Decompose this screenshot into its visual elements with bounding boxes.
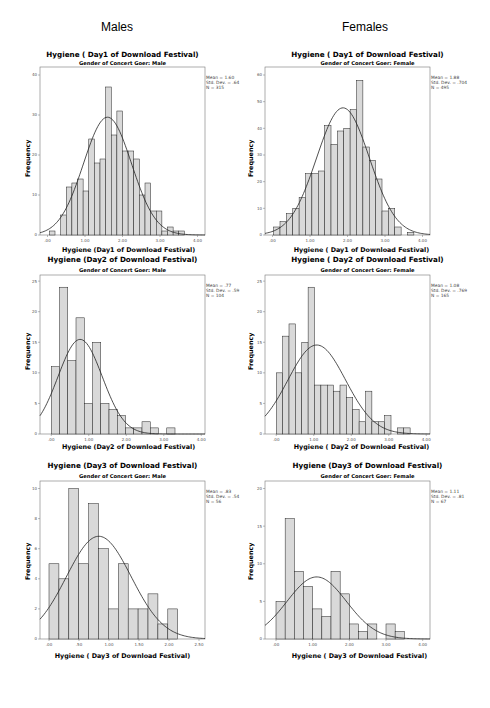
y-tick-label: 0 (259, 636, 262, 641)
y-axis-label: Frequency (247, 543, 255, 580)
x-tick-label: 1.00 (309, 437, 318, 442)
y-axis-label: Frequency (247, 140, 255, 177)
histogram-bar (294, 571, 303, 639)
y-tick-label: 25 (257, 279, 263, 284)
x-tick-label: 2.00 (122, 437, 131, 442)
histogram-bar (388, 208, 394, 235)
histogram-bar (78, 179, 84, 235)
y-tick-label: 5 (34, 401, 37, 406)
x-tick-label: 1.00 (308, 642, 317, 647)
y-tick-label: 20 (32, 152, 38, 157)
histogram-bar (69, 489, 79, 639)
histogram-bar (134, 159, 140, 235)
y-tick-label: 20 (257, 309, 263, 314)
histogram-bar (395, 227, 401, 235)
histogram-bar (334, 391, 340, 434)
histogram-bar (162, 231, 168, 235)
histogram-bar (359, 422, 365, 434)
histogram-bar (158, 624, 168, 639)
plot-area: 05101520.001.002.003.004.00 (245, 450, 490, 650)
histogram-bar (321, 385, 327, 434)
histogram-bar (89, 139, 95, 235)
histogram-bar (372, 422, 378, 434)
y-tick-label: 0 (34, 232, 37, 237)
y-tick-label: 15 (257, 340, 263, 345)
histogram-male-day1: Hygiene ( Day1 of Download Festival) Gen… (0, 40, 245, 240)
histogram-bar (148, 594, 158, 639)
plot-area: 010203040.001.002.003.004.00 (0, 40, 245, 240)
histogram-bar (408, 232, 414, 235)
x-tick-label: 2.00 (347, 437, 356, 442)
histogram-bar (101, 403, 109, 434)
y-tick-label: 10 (32, 370, 38, 375)
histogram-bar (331, 571, 340, 639)
stats-box: Mean = 1.60Std. Dev. = .64N = 315 (206, 75, 239, 90)
stats-box: Mean = 1.08Std. Dev. = .769N = 165 (431, 283, 467, 298)
x-tick-label: 1.50 (135, 642, 144, 647)
histogram-bar (306, 174, 312, 235)
column-title-males: Males (101, 20, 133, 34)
y-tick-label: 5 (259, 599, 262, 604)
x-tick-label: 2.50 (195, 642, 204, 647)
histogram-bar (340, 385, 346, 434)
x-tick-label: .00 (273, 437, 280, 442)
histogram-bar (128, 609, 138, 639)
histogram-bar (308, 287, 314, 434)
histogram-bar (117, 111, 123, 235)
y-tick-label: 2 (34, 606, 37, 611)
histogram-bar (369, 160, 375, 235)
histogram-bar (276, 601, 285, 639)
y-tick-label: 10 (32, 486, 38, 491)
y-axis-label: Frequency (247, 333, 255, 370)
histogram-female-day2: Hygiene ( Day2 of Download Festival) Gen… (245, 250, 490, 450)
x-tick-label: 1.00 (81, 238, 90, 243)
y-tick-label: 0 (259, 431, 262, 436)
y-tick-label: 40 (257, 126, 263, 131)
x-tick-label: 2.00 (343, 238, 352, 243)
plot-area: 0246810.00.501.001.502.002.50 (0, 450, 245, 650)
y-tick-label: 0 (34, 431, 37, 436)
y-tick-label: 0 (259, 232, 262, 237)
histogram-bar (108, 609, 118, 639)
histogram-bar (322, 616, 331, 639)
x-axis-label: Hygiene ( Day3 of Download Festival) (0, 652, 245, 660)
histogram-bar (79, 564, 89, 639)
x-tick-label: 2.00 (345, 642, 354, 647)
histogram-bar (49, 231, 55, 235)
y-tick-label: 15 (32, 340, 38, 345)
x-tick-label: 4.00 (193, 238, 202, 243)
histogram-bar (139, 195, 145, 235)
y-tick-label: 15 (257, 524, 263, 529)
x-tick-label: .50 (76, 642, 83, 647)
y-axis-label: Frequency (24, 333, 32, 370)
histogram-bar (151, 211, 157, 235)
histogram-male-day2: Hygiene (Day2 of Download Festival) Gend… (0, 250, 245, 450)
histogram-bar (304, 586, 313, 639)
histogram-bar (359, 631, 368, 639)
histogram-male-day3: Hygiene (Day3 of Download Festival) Gend… (0, 450, 245, 650)
histogram-bar (312, 174, 318, 235)
histogram-bar (385, 416, 391, 434)
histogram-bar (350, 110, 356, 235)
histogram-bar (346, 397, 352, 434)
y-tick-label: 10 (32, 192, 38, 197)
x-tick-label: 2.00 (165, 642, 174, 647)
y-tick-label: 20 (257, 486, 263, 491)
histogram-bar (315, 385, 321, 434)
x-tick-label: .00 (48, 437, 55, 442)
y-tick-label: 5 (259, 401, 262, 406)
histogram-bar (106, 87, 112, 235)
x-axis-label: Hygiene ( Day3 of Download Festival) (237, 652, 482, 660)
histogram-bar (61, 215, 67, 235)
histogram-bar (382, 211, 388, 235)
x-tick-label: 4.00 (418, 642, 427, 647)
histogram-bar (276, 373, 282, 434)
x-tick-label: .00 (269, 238, 276, 243)
histogram-bar (84, 403, 92, 434)
histogram-bar (349, 624, 358, 639)
histogram-bar (89, 504, 99, 639)
histogram-bar (68, 361, 76, 434)
x-tick-label: 4.00 (197, 437, 206, 442)
histogram-bar (285, 519, 294, 639)
y-tick-label: 20 (32, 309, 38, 314)
